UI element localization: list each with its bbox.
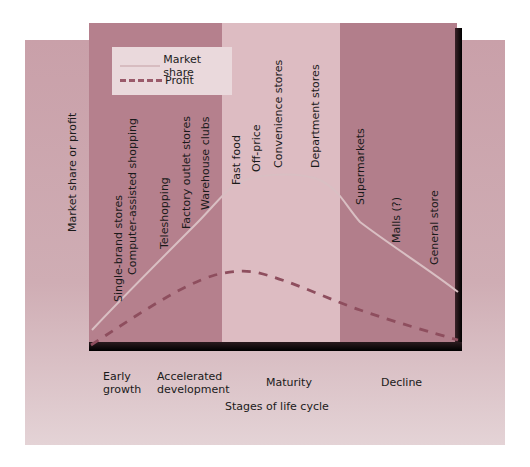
y-axis-title: Market share or profit <box>66 113 79 232</box>
annotation-single-brand: Single-brand stores <box>112 195 125 302</box>
legend-label-profit: Profit <box>165 74 194 87</box>
market-share-curve <box>92 175 458 330</box>
profit-curve <box>91 271 458 345</box>
annotation-factory-outlet: Factory outlet stores <box>180 116 193 229</box>
annotation-supermarkets: Supermarkets <box>354 128 367 205</box>
stage-label-early-line2: growth <box>103 383 141 396</box>
annotation-malls: Malls (?) <box>390 197 403 243</box>
curves-layer <box>0 0 530 467</box>
x-axis-title: Stages of life cycle <box>225 400 329 413</box>
annotation-convenience: Convenience stores <box>272 60 285 168</box>
annotation-teleshopping: Teleshopping <box>158 177 171 249</box>
stage-label-maturity: Maturity <box>266 376 312 389</box>
annotation-warehouse-clubs: Warehouse clubs <box>199 117 212 210</box>
legend-item-profit: Profit <box>120 74 194 87</box>
dashed-line-icon <box>120 79 162 82</box>
annotation-computer-assisted: Computer-assisted shopping <box>126 118 139 275</box>
solid-line-icon <box>120 65 160 67</box>
stage-label-accel-line2: development <box>157 383 230 396</box>
stage-label-accelerated-development: Accelerated development <box>157 370 230 396</box>
annotation-general-store: General store <box>428 190 441 265</box>
stage-label-decline: Decline <box>381 376 422 389</box>
chart-legend: Market share Profit <box>112 47 232 95</box>
stage-label-accel-line1: Accelerated <box>157 370 230 383</box>
stage-label-early-growth: Early growth <box>103 370 141 396</box>
annotation-fast-food: Fast food <box>230 135 243 185</box>
annotation-department: Department stores <box>309 64 322 168</box>
stage-label-early-line1: Early <box>103 370 141 383</box>
annotation-off-price: Off-price <box>250 124 263 172</box>
